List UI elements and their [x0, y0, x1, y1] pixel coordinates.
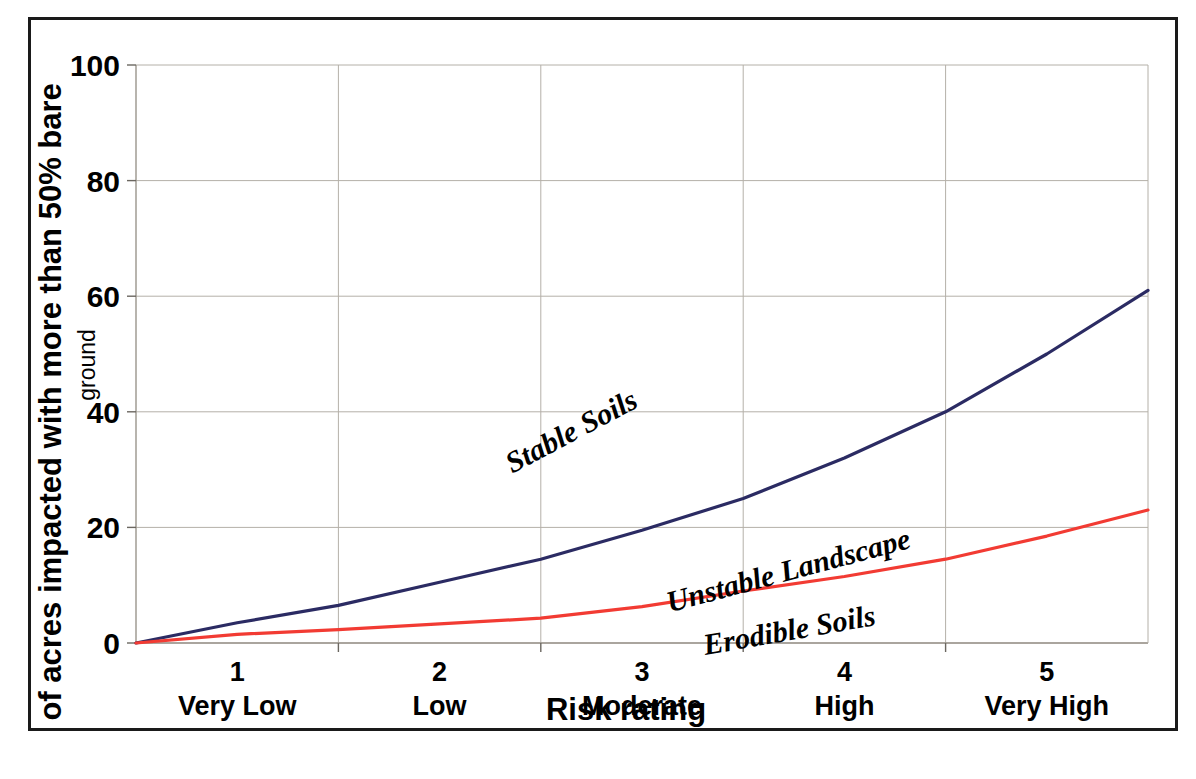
y-tick-label: 60	[87, 280, 120, 313]
y-tick-label: 100	[70, 49, 120, 82]
series-annotation: Stable Soils	[500, 382, 643, 479]
x-category-name: Low	[413, 691, 468, 721]
y-tick-label: 20	[87, 511, 120, 544]
chart-border-frame: 020406080100 1Very Low2Low3Moderate4High…	[28, 17, 1178, 731]
x-category-number: 3	[634, 657, 649, 687]
y-axis-title: % of acres impacted with more than 50% b…	[33, 83, 68, 728]
y-tick-label: 0	[103, 627, 120, 660]
series-line	[136, 290, 1148, 643]
series-annotation: Erodible Soils	[700, 598, 878, 661]
x-category-name: High	[814, 691, 874, 721]
y-tick-label: 80	[87, 165, 120, 198]
series-lines	[136, 290, 1148, 643]
x-category-name: Very Low	[178, 691, 298, 721]
x-category-number: 1	[230, 657, 245, 687]
gridlines	[136, 65, 1148, 643]
axis-lines	[136, 65, 1148, 643]
risk-rating-line-chart: 020406080100 1Very Low2Low3Moderate4High…	[31, 20, 1175, 728]
x-category-number: 5	[1039, 657, 1054, 687]
chart-figure: 020406080100 1Very Low2Low3Moderate4High…	[0, 0, 1196, 779]
x-category-name: Very High	[985, 691, 1110, 721]
x-axis-title: Risk rating	[546, 692, 706, 727]
y-axis-title-line2: ground	[74, 329, 100, 401]
x-category-number: 2	[432, 657, 447, 687]
x-category-number: 4	[837, 657, 852, 687]
series-annotations: Stable SoilsUnstable LandscapeErodible S…	[500, 382, 914, 661]
